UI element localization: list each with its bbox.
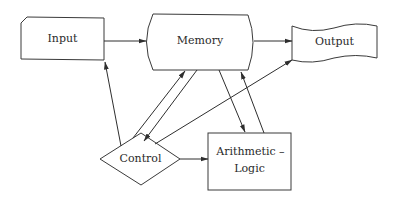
arithmetic-logic-node-label-line1: Arithmetic – — [208, 145, 293, 159]
edge-control-to-output — [155, 60, 292, 144]
edge-memory-to-arithmetic — [219, 70, 245, 132]
edge-memory-to-control — [144, 70, 197, 141]
input-node-label: Input — [21, 32, 104, 46]
arithmetic-logic-node-label-line2: Logic — [208, 162, 291, 176]
control-node-label: Control — [100, 152, 181, 166]
diagram-canvas: Input Memory Output Control Arithmetic –… — [0, 0, 395, 199]
edge-arithmetic-to-memory — [241, 72, 264, 133]
memory-node-label: Memory — [150, 34, 250, 48]
edge-control-to-memory — [133, 71, 185, 138]
output-node-label: Output — [292, 35, 377, 49]
edge-control-to-input — [105, 62, 121, 146]
diagram-svg — [0, 0, 395, 199]
